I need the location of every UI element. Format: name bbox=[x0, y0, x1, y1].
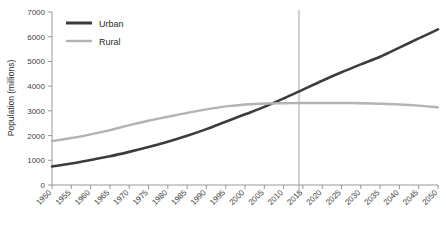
chart-canvas: 01000200030004000500060007000 1950195519… bbox=[0, 0, 446, 229]
y-tick-label: 0 bbox=[41, 181, 46, 190]
y-tick-label: 5000 bbox=[27, 57, 45, 66]
y-tick-label: 1000 bbox=[27, 156, 45, 165]
legend-label-rural: Rural bbox=[99, 37, 121, 47]
x-axis-ticks bbox=[52, 185, 438, 189]
y-tick-label: 4000 bbox=[27, 82, 45, 91]
y-tick-label: 3000 bbox=[27, 107, 45, 116]
legend-label-urban: Urban bbox=[99, 19, 124, 29]
y-tick-label: 2000 bbox=[27, 132, 45, 141]
y-axis-title: Population (millions) bbox=[6, 60, 16, 137]
population-line-chart: 01000200030004000500060007000 1950195519… bbox=[0, 0, 446, 229]
y-tick-label: 6000 bbox=[27, 33, 45, 42]
y-tick-label: 7000 bbox=[27, 8, 45, 17]
